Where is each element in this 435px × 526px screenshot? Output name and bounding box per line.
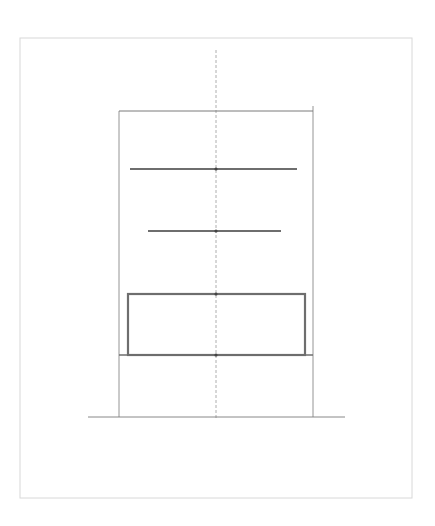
axis-node (214, 167, 217, 170)
lower-box (128, 294, 305, 355)
axis-node (214, 292, 217, 295)
axis-node (214, 229, 217, 232)
axis-node (214, 353, 217, 356)
elevation-drawing (0, 0, 435, 526)
